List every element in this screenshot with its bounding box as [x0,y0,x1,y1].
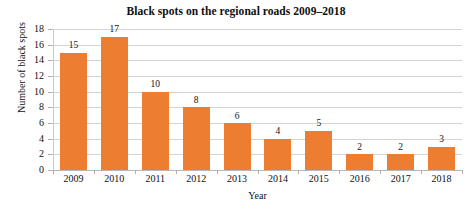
bar-value-label: 4 [258,127,299,137]
x-tick-label: 2015 [298,174,339,184]
bar[interactable] [346,154,373,170]
x-tick-mark [380,170,381,174]
bar-slot: 8 [176,29,217,170]
bar-slot: 17 [94,29,135,170]
bar[interactable] [183,107,210,170]
y-tick-label: 0 [0,165,44,175]
x-tick-label: 2010 [94,174,135,184]
bar-value-label: 2 [380,143,421,153]
y-tick-label: 6 [0,118,44,128]
x-tick-label: 2014 [258,174,299,184]
bar[interactable] [305,131,332,170]
bar-value-label: 5 [298,119,339,129]
bar-slot: 5 [298,29,339,170]
bar[interactable] [224,123,251,170]
bar-value-label: 15 [53,41,94,51]
bar-slot: 3 [421,29,462,170]
bar-value-label: 10 [135,80,176,90]
y-tick-label: 18 [0,24,44,34]
bar-slot: 2 [339,29,380,170]
x-tick-label: 2018 [421,174,462,184]
x-tick-mark [421,170,422,174]
y-tick-label: 8 [0,102,44,112]
x-tick-mark [217,170,218,174]
bar-value-label: 8 [176,96,217,106]
bar[interactable] [60,53,87,171]
y-tick-label: 4 [0,134,44,144]
bar[interactable] [428,147,455,171]
x-tick-mark [258,170,259,174]
bar-value-label: 6 [217,112,258,122]
x-tick-mark [53,170,54,174]
bar-value-label: 17 [94,25,135,35]
x-tick-mark [462,170,463,174]
bar-slot: 10 [135,29,176,170]
bar[interactable] [264,139,291,170]
x-tick-label: 2016 [339,174,380,184]
bar[interactable] [101,37,128,170]
bar[interactable] [387,154,414,170]
bar-slot: 15 [53,29,94,170]
bar-slot: 6 [217,29,258,170]
x-tick-mark [94,170,95,174]
x-tick-label: 2013 [217,174,258,184]
x-tick-mark [298,170,299,174]
bar-chart: Black spots on the regional roads 2009–2… [0,0,472,213]
x-tick-mark [135,170,136,174]
bar[interactable] [142,92,169,170]
y-tick-label: 2 [0,149,44,159]
x-tick-mark [339,170,340,174]
y-tick-label: 16 [0,40,44,50]
y-tick-label: 12 [0,71,44,81]
x-tick-label: 2011 [135,174,176,184]
x-tick-label: 2017 [380,174,421,184]
bar-value-label: 2 [339,143,380,153]
plot-area: 1517108645223 [53,29,462,170]
bar-slot: 2 [380,29,421,170]
bar-slot: 4 [258,29,299,170]
x-tick-mark [176,170,177,174]
x-axis-title: Year [53,190,462,201]
x-tick-label: 2012 [176,174,217,184]
bar-value-label: 3 [421,135,462,145]
y-tick-label: 10 [0,87,44,97]
y-tick-label: 14 [0,55,44,65]
x-tick-label: 2009 [53,174,94,184]
y-axis-title: Number of black spots [16,3,27,133]
chart-title: Black spots on the regional roads 2009–2… [0,5,472,17]
